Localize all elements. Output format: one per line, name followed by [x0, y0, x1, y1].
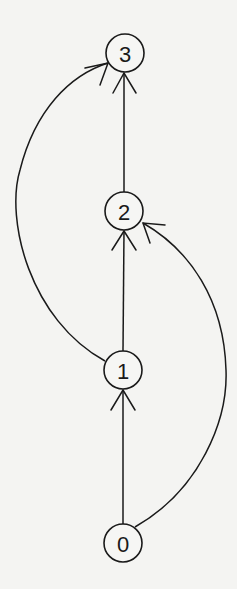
node-label: 1 — [117, 359, 129, 384]
node-2: 2 — [105, 192, 143, 230]
node-0: 0 — [104, 524, 142, 562]
arrowhead-icon — [143, 223, 165, 243]
directed-graph: 3 2 1 0 — [0, 0, 237, 589]
node-label: 3 — [119, 42, 131, 67]
edge-1-to-2 — [112, 231, 136, 351]
node-1: 1 — [104, 351, 142, 389]
arrowhead-icon — [85, 63, 108, 85]
node-label: 2 — [118, 200, 130, 225]
edge-0-to-2 — [135, 223, 226, 527]
node-3: 3 — [106, 34, 144, 72]
edge-1-to-3 — [16, 63, 108, 361]
edge-2-to-3 — [113, 73, 136, 192]
edge-0-to-1 — [111, 390, 135, 524]
node-label: 0 — [117, 532, 129, 557]
